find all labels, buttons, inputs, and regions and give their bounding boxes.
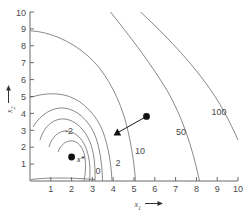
contour-baseline-wisp — [31, 178, 95, 180]
x-axis-ticks — [51, 177, 238, 181]
y-tick-label: 8 — [21, 41, 26, 51]
x-tick-label: 8 — [194, 184, 199, 194]
plot-canvas: 1 2 3 4 5 6 7 8 9 10 1 2 3 4 5 6 7 8 9 1… — [0, 0, 250, 217]
x-tick-label: 1 — [48, 184, 53, 194]
contour-label-0: 0 — [95, 166, 100, 176]
y-axis-ticks — [30, 12, 34, 164]
x-tick-label: 7 — [173, 184, 178, 194]
contour-line-0 — [33, 108, 103, 181]
start-point-marker — [143, 113, 150, 120]
x-tick-label: 10 — [233, 184, 243, 194]
contour-label-100: 100 — [211, 107, 226, 117]
x-tick-labels: 1 2 3 4 5 6 7 8 9 10 — [48, 184, 243, 194]
y-tick-labels: 1 2 3 4 5 6 7 8 9 10 — [16, 8, 26, 170]
contour-label-50: 50 — [176, 127, 186, 137]
search-step-line — [117, 116, 146, 132]
x-tick-label: 2 — [69, 184, 74, 194]
y-axis-title-group: x2 — [5, 85, 16, 114]
y-tick-label: 2 — [21, 142, 26, 152]
x-axis-title: x1 — [133, 200, 141, 211]
contour-label-minus2: -2 — [65, 126, 73, 136]
contour-label-2: 2 — [115, 158, 120, 168]
y-tick-label: 5 — [21, 92, 26, 102]
step-point-marker — [114, 129, 122, 136]
y-tick-label: 10 — [16, 8, 26, 18]
x-tick-label: 9 — [215, 184, 220, 194]
search-path-group — [114, 113, 150, 136]
x-tick-label: 5 — [131, 184, 136, 194]
x-axis-title-group: x1 — [133, 200, 163, 211]
optimum-label: x* — [76, 155, 85, 164]
x-tick-label: 4 — [111, 184, 116, 194]
y-tick-label: 9 — [21, 24, 26, 34]
contour-label-10: 10 — [135, 146, 145, 156]
y-axis-arrow-icon — [6, 85, 11, 103]
y-tick-label: 3 — [21, 126, 26, 136]
x-axis-arrow-icon — [145, 201, 163, 206]
contour-line-100 — [141, 12, 239, 140]
optimum-group: x* — [68, 154, 84, 164]
y-tick-label: 1 — [21, 159, 26, 169]
contour-line-50 — [111, 12, 200, 181]
y-tick-label: 7 — [21, 58, 26, 68]
y-tick-label: 4 — [21, 109, 26, 119]
contour-plot-figure: 1 2 3 4 5 6 7 8 9 10 1 2 3 4 5 6 7 8 9 1… — [0, 0, 250, 217]
optimum-marker — [68, 154, 75, 161]
y-axis-title: x2 — [5, 106, 16, 114]
x-tick-label: 6 — [152, 184, 157, 194]
y-tick-label: 6 — [21, 75, 26, 85]
x-tick-label: 3 — [90, 184, 95, 194]
